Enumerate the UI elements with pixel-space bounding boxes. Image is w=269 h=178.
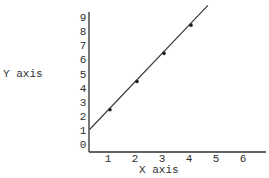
y-tick-label: 1 bbox=[78, 125, 88, 137]
x-tick-label: 4 bbox=[184, 153, 194, 165]
y-tick-label: 8 bbox=[78, 26, 88, 38]
x-tick-label: 2 bbox=[130, 153, 140, 165]
data-point-marker bbox=[162, 52, 166, 56]
data-point-marker bbox=[108, 108, 112, 112]
x-tick-label: 6 bbox=[238, 153, 248, 165]
y-tick-label: 2 bbox=[78, 111, 88, 123]
y-axis-label: Y axis bbox=[3, 68, 43, 80]
x-tick-label: 3 bbox=[157, 153, 167, 165]
y-tick-label: 0 bbox=[78, 139, 88, 151]
x-tick-label: 5 bbox=[211, 153, 221, 165]
line-chart: Y axis X axis 0123456789 123456 bbox=[0, 0, 269, 178]
y-tick-label: 4 bbox=[78, 83, 88, 95]
y-tick-label: 5 bbox=[78, 69, 88, 81]
y-tick-label: 6 bbox=[78, 54, 88, 66]
x-tick-label: 1 bbox=[103, 153, 113, 165]
y-tick-label: 9 bbox=[78, 12, 88, 24]
y-tick-label: 3 bbox=[78, 97, 88, 109]
plot-area bbox=[0, 0, 269, 178]
x-axis-label: X axis bbox=[139, 164, 179, 176]
data-point-marker bbox=[135, 80, 139, 84]
y-tick-label: 7 bbox=[78, 40, 88, 52]
data-point-marker bbox=[189, 23, 193, 27]
